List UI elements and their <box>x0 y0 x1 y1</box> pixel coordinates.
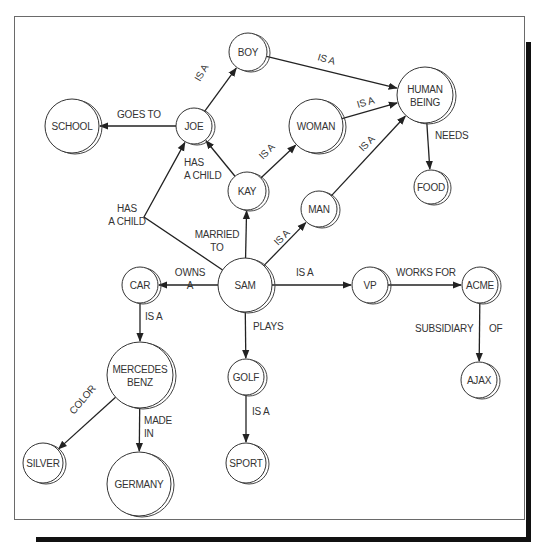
node-man: MAN <box>301 191 340 228</box>
node-school: SCHOOL <box>45 99 102 154</box>
edge-mercedes_benz-to-silver <box>59 397 116 449</box>
edge-label: IS A <box>296 267 314 278</box>
edge-label: PLAYS <box>253 321 284 332</box>
node-label: SCHOOL <box>51 121 93 132</box>
edge-label: NEEDS <box>435 130 469 141</box>
node-golf: GOLF <box>228 359 267 396</box>
node-woman: WOMAN <box>289 99 346 154</box>
node-mercedes-benz: MERCEDESBENZ <box>107 342 176 409</box>
semantic-network: BOYHUMANBEINGSCHOOLJOEWOMANKAYMANFOODCAR… <box>0 0 546 549</box>
node-label: KAY <box>238 186 257 197</box>
edge-label: HASA CHILD <box>184 157 222 181</box>
edge-label: WORKS FOR <box>396 267 456 278</box>
edge-label: IS A <box>272 227 293 248</box>
node-vp: VP <box>352 267 391 304</box>
node-label: BOY <box>238 47 259 58</box>
node-human-being: HUMANBEING <box>397 67 456 124</box>
edge-label: MADEIN <box>144 415 173 439</box>
node-food: FOOD <box>414 170 451 205</box>
edge-sam-to-golf <box>245 312 246 358</box>
edge-label: IS A <box>257 141 278 162</box>
edge-label: IS A <box>356 94 376 110</box>
node-acme: ACME <box>462 267 501 304</box>
edge-label: GOES TO <box>117 109 161 120</box>
edge-label: IS A <box>192 62 211 83</box>
node-boy: BOY <box>229 33 270 72</box>
node-label: VP <box>364 280 377 291</box>
edge-label: IS A <box>252 406 270 417</box>
node-label: JOE <box>185 121 204 132</box>
edge-label: IS A <box>145 311 163 322</box>
edge-label: SUBSIDIARYOF <box>415 323 503 334</box>
edge-joe-to-boy <box>205 68 237 111</box>
edge-label: MARRIEDTO <box>195 229 240 253</box>
node-label: WOMAN <box>297 121 335 132</box>
node-car: CAR <box>122 267 161 304</box>
edge-label: IS A <box>316 51 336 67</box>
edge-label: OWNSA <box>175 267 206 291</box>
node-label: SILVER <box>26 458 60 469</box>
node-silver: SILVER <box>23 443 66 484</box>
node-joe: JOE <box>176 108 215 145</box>
node-label: SPORT <box>229 458 262 469</box>
edge-human_being-to-food <box>427 123 430 169</box>
node-label: CAR <box>130 280 151 291</box>
node-germany: GERMANY <box>107 452 174 517</box>
edge-label: COLOR <box>67 383 98 417</box>
node-label: GERMANY <box>114 479 164 490</box>
edge-acme-to-ajax <box>479 303 480 361</box>
node-label: SAM <box>234 280 255 291</box>
node-label: ACME <box>466 280 495 291</box>
node-label: MAN <box>308 204 330 215</box>
edge-label: HASA CHILD <box>108 203 146 227</box>
edge-sam-to-kay <box>246 211 247 258</box>
node-ajax: AJAX <box>461 362 500 399</box>
node-label: GOLF <box>233 372 260 383</box>
node-sport: SPORT <box>226 443 269 484</box>
node-kay: KAY <box>228 172 269 211</box>
node-label: AJAX <box>467 375 492 386</box>
node-label: FOOD <box>417 182 445 193</box>
node-sam: SAM <box>218 258 275 313</box>
